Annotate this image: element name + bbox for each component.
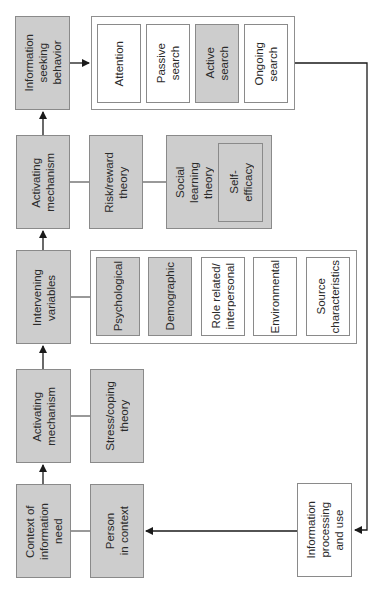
seeking-type-label: Active search	[203, 46, 231, 81]
variable-type-source-characteristics: Source characteristics	[306, 257, 350, 336]
seeking-type-ongoing-search: Ongoing search	[244, 24, 288, 103]
seeking-type-attention: Attention	[97, 24, 141, 103]
seeking-type-passive-search: Passive search	[146, 24, 190, 103]
activating-mechanism-lower-box: Activating mechanism	[16, 369, 71, 463]
intervening-variables-label: Intervening variables	[30, 269, 58, 326]
stress-coping-theory-label: Stress/coping theory	[103, 381, 131, 451]
variable-type-environmental: Environmental	[253, 257, 297, 336]
intervening-variables-box: Intervening variables	[16, 250, 71, 344]
context-of-information-need-box: Context of information need	[16, 484, 71, 578]
variable-type-label: Environmental	[268, 260, 282, 334]
information-processing-and-use-box: Information processing and use	[297, 483, 352, 577]
social-learning-theory-label: Social learning theory	[173, 162, 217, 203]
seeking-type-label: Passive search	[154, 43, 182, 83]
seeking-type-label: Attention	[112, 41, 126, 86]
activating-mechanism-label: Activating mechanism	[29, 153, 57, 212]
stress-coping-theory-box: Stress/coping theory	[90, 369, 144, 463]
seeking-type-label: Ongoing search	[252, 42, 280, 85]
self-efficacy-box: Self- efficacy	[218, 143, 263, 222]
variable-type-label: Role related/ interpersonal	[209, 263, 237, 329]
variable-type-psychological: Psychological	[96, 257, 140, 336]
information-processing-and-use-label: Information processing and use	[304, 501, 346, 559]
variable-type-label: Source characteristics	[314, 260, 342, 334]
information-seeking-behavior-box: Information seeking behavior	[15, 16, 70, 110]
risk-reward-theory-label: Risk/reward theory	[102, 152, 130, 213]
variable-type-label: Psychological	[111, 261, 125, 331]
self-efficacy-label: Self- efficacy	[227, 163, 255, 202]
variable-type-demographic: Demographic	[148, 257, 192, 336]
context-of-information-need-label: Context of information need	[23, 503, 65, 560]
variable-type-role-related: Role related/ interpersonal	[201, 257, 245, 336]
variable-type-label: Demographic	[163, 262, 177, 330]
risk-reward-theory-box: Risk/reward theory	[89, 135, 143, 229]
information-seeking-behavior-label: Information seeking behavior	[22, 34, 64, 92]
seeking-type-active-search: Active search	[195, 24, 239, 103]
activating-mechanism-label: Activating mechanism	[30, 387, 58, 446]
activating-mechanism-upper-box: Activating mechanism	[16, 135, 70, 229]
person-in-context-box: Person in context	[90, 484, 144, 578]
person-in-context-label: Person in context	[103, 506, 131, 555]
